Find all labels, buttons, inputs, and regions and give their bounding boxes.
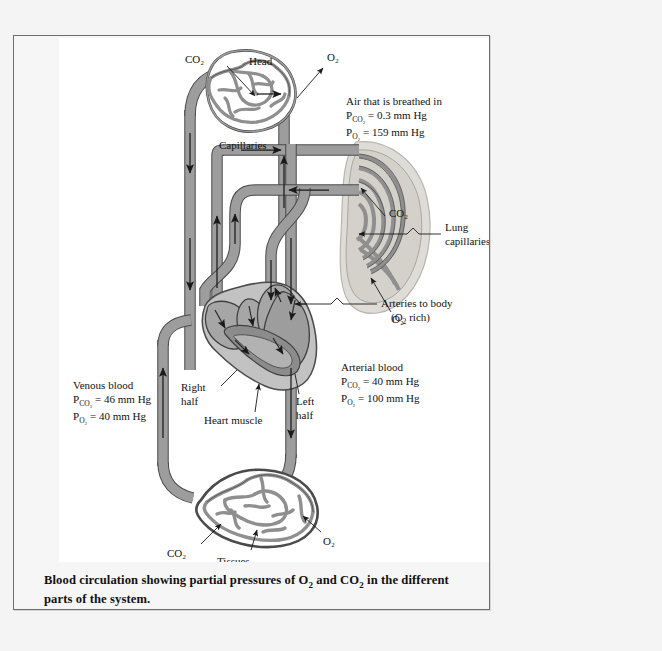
label-heart-muscle: Heart muscle — [204, 413, 262, 427]
annotation-tissues: Tissues PCO₂ = 60 mm Hg PO₂ = 30 mm Hg — [217, 554, 295, 562]
label-left-half: Left half — [296, 394, 314, 422]
lung-cap-line1: Lung — [445, 220, 489, 234]
arteries-line1: Arteries to body — [381, 296, 452, 310]
air-po2: PO₂ = 159 mm Hg — [346, 125, 442, 142]
diagram-canvas: CO₂ Head O₂ Capillaries Air that is brea… — [59, 38, 489, 562]
right-half-line1: Right — [181, 380, 205, 394]
annotation-air-breathed-in: Air that is breathed in PCO₂ = 0.3 mm Hg… — [346, 94, 442, 142]
heart — [202, 283, 316, 391]
arterial-pco2: PCO₂ = 40 mm Hg — [341, 374, 420, 391]
arterial-po2: PO₂ = 100 mm Hg — [341, 391, 420, 408]
air-title: Air that is breathed in — [346, 94, 442, 108]
annotation-arterial-blood: Arterial blood PCO₂ = 40 mm Hg PO₂ = 100… — [341, 360, 420, 408]
venous-po2: PO₂ = 40 mm Hg — [73, 409, 151, 426]
label-head-co2: CO₂ — [185, 52, 204, 66]
left-half-line1: Left — [296, 394, 314, 408]
caption-line2: parts of the system. — [44, 592, 150, 606]
left-half-line2: half — [296, 408, 314, 422]
annotation-arteries-to-body: Arteries to body (O2 rich) — [381, 296, 452, 327]
label-tissues-o2: O₂ — [323, 534, 335, 548]
label-lung-co2: CO₂ — [389, 206, 408, 220]
arterial-title: Arterial blood — [341, 360, 420, 374]
venous-title: Venous blood — [73, 378, 151, 392]
tissues-title: Tissues — [217, 554, 295, 562]
annotation-venous-blood: Venous blood PCO₂ = 46 mm Hg PO₂ = 40 mm… — [73, 378, 151, 426]
label-capillaries: Capillaries — [219, 138, 267, 152]
venous-pco2: PCO₂ = 46 mm Hg — [73, 392, 151, 409]
label-lung-capillaries: Lung capillaries — [445, 220, 489, 248]
label-tissues-co2: CO₂ — [167, 546, 186, 560]
label-right-half: Right half — [181, 380, 205, 408]
arteries-line2: (O2 rich) — [381, 310, 452, 327]
tissue-capillary-bed — [196, 470, 317, 547]
lung-cap-line2: capillaries — [445, 234, 489, 248]
figure-frame: CO₂ Head O₂ Capillaries Air that is brea… — [13, 35, 490, 610]
label-head-o2: O₂ — [327, 50, 339, 64]
right-half-line2: half — [181, 394, 205, 408]
label-head: Head — [249, 54, 272, 68]
air-pco2: PCO₂ = 0.3 mm Hg — [346, 108, 442, 125]
figure-caption: Blood circulation showing partial pressu… — [44, 572, 469, 608]
